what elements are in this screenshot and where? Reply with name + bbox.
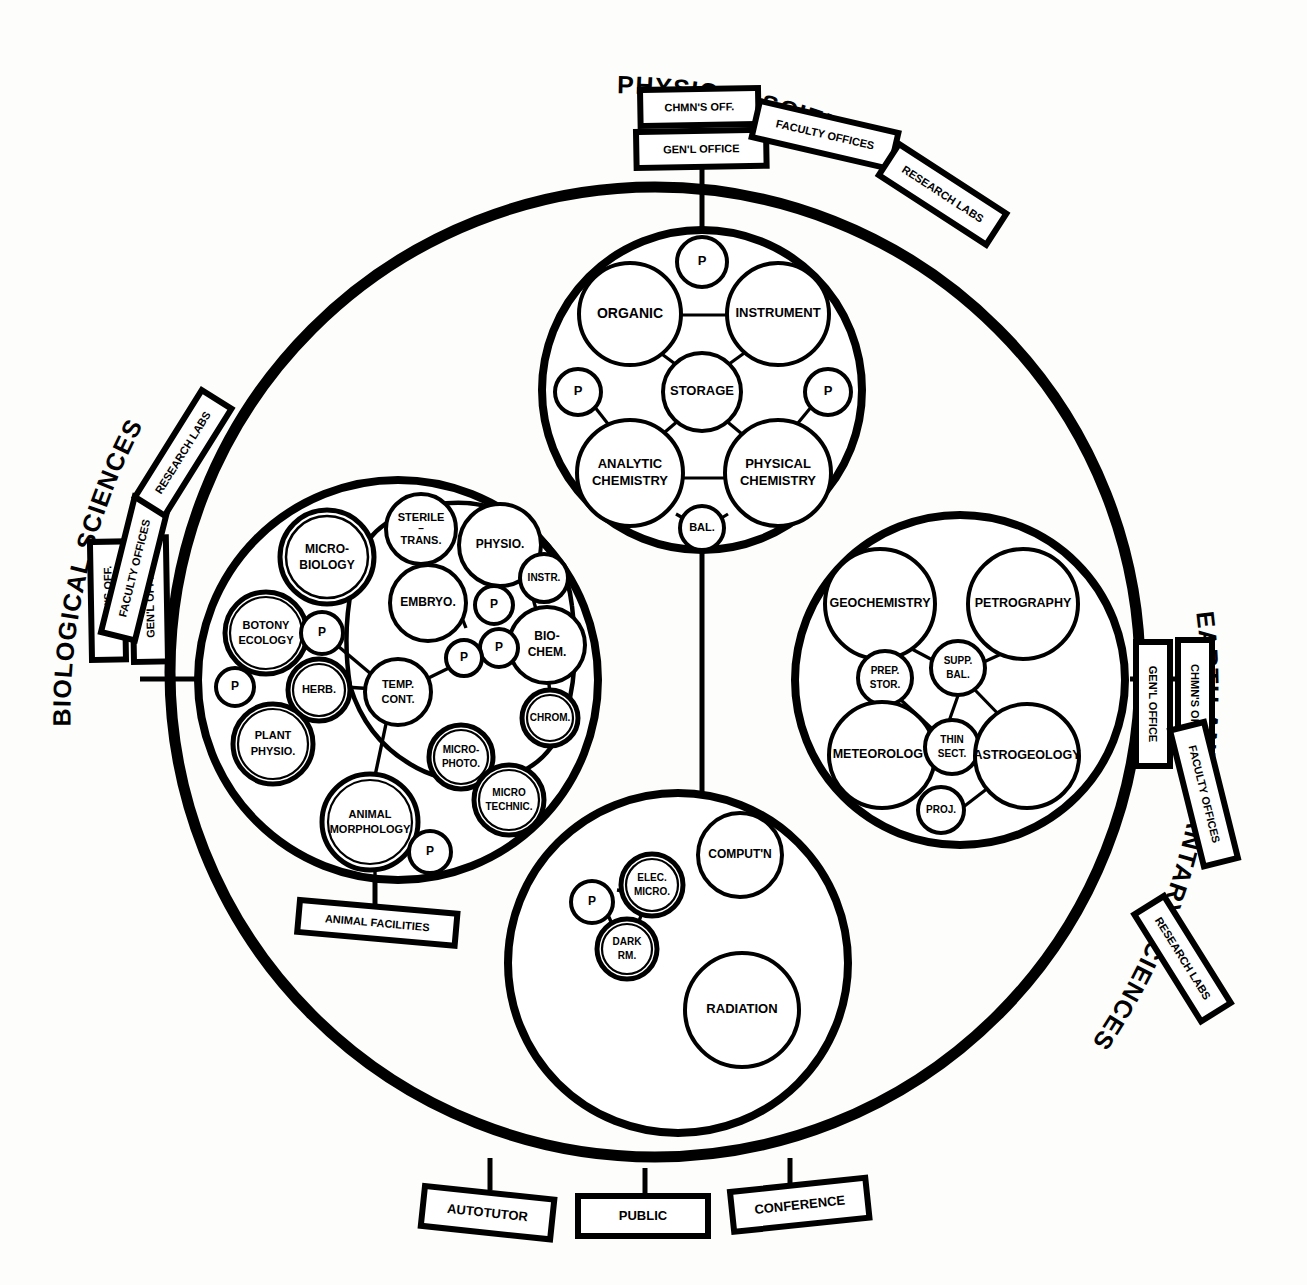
node-microbiology-label-2: BIOLOGY xyxy=(299,558,354,572)
node-botony-ecology[interactable]: BOTONY ECOLOGY xyxy=(225,592,307,674)
node-geochemistry-label: GEOCHEMISTRY xyxy=(830,596,932,610)
node-p-bio-1[interactable]: P xyxy=(301,612,343,654)
node-biochem[interactable]: BIO- CHEM. xyxy=(509,607,585,683)
node-p-bio-5-label: P xyxy=(460,650,468,664)
node-p-bio-6-label: P xyxy=(426,844,434,858)
node-botony-ecology-label-2: ECOLOGY xyxy=(238,634,294,646)
node-p-physical-left[interactable]: P xyxy=(555,369,601,415)
node-p-bio-2[interactable]: P xyxy=(216,668,254,706)
node-embryo-label: EMBRYO. xyxy=(400,595,456,609)
node-animal-morphology[interactable]: ANIMAL MORPHOLOGY xyxy=(322,774,418,870)
box-physical-chmns-off-label: CHMN'S OFF. xyxy=(664,100,734,113)
node-instrument[interactable]: INSTRUMENT xyxy=(727,263,829,365)
node-plant-physio[interactable]: PLANT PHYSIO. xyxy=(233,704,313,784)
node-micro-technic[interactable]: MICRO TECHNIC. xyxy=(474,765,544,835)
box-physical-genl-office[interactable]: GEN'L OFFICE xyxy=(636,130,767,168)
node-radiation[interactable]: RADIATION xyxy=(685,953,799,1067)
box-physical-research-labs[interactable]: RESEARCH LABS xyxy=(879,144,1007,245)
node-thin-sect-label-1: THIN xyxy=(940,734,963,745)
node-prep-stor[interactable]: PREP. STOR. xyxy=(858,651,912,705)
node-p-bio-4[interactable]: P xyxy=(480,629,518,667)
node-sterile-trans[interactable]: STERILE – TRANS. xyxy=(386,494,456,564)
node-sterile-trans-label-3: TRANS. xyxy=(401,534,442,546)
cluster-physical-sciences[interactable]: ORGANIC INSTRUMENT STORAGE ANALYTIC CHEM… xyxy=(542,230,862,550)
box-conference[interactable]: CONFERENCE xyxy=(730,1178,869,1232)
node-p-shared-label: P xyxy=(588,894,596,908)
node-instr[interactable]: INSTR. xyxy=(520,554,568,602)
facility-plan-svg: ORGANIC INSTRUMENT STORAGE ANALYTIC CHEM… xyxy=(0,0,1307,1285)
node-p-bio-3[interactable]: P xyxy=(475,586,513,624)
node-p-bio-5[interactable]: P xyxy=(446,640,482,676)
node-physical-chemistry[interactable]: PHYSICAL CHEMISTRY xyxy=(725,420,831,526)
node-p-physical-top-label: P xyxy=(698,253,707,268)
node-micro-technic-label-1: MICRO xyxy=(492,787,526,798)
node-analytic-chemistry[interactable]: ANALYTIC CHEMISTRY xyxy=(577,420,683,526)
node-analytic-chemistry-label-2: CHEMISTRY xyxy=(592,473,668,488)
node-micro-technic-label-2: TECHNIC. xyxy=(485,801,532,812)
node-elec-micro[interactable]: ELEC. MICRO. xyxy=(621,854,683,916)
cluster-shared-facilities[interactable]: ELEC. MICRO. DARK RM. P COMPUT'N RADIATI… xyxy=(508,793,848,1133)
node-dark-rm-label-1: DARK xyxy=(613,936,643,947)
node-temp-cont-label-1: TEMP. xyxy=(382,678,414,690)
node-geochemistry[interactable]: GEOCHEMISTRY xyxy=(825,549,935,659)
node-bal-label: BAL. xyxy=(689,521,715,533)
node-p-shared[interactable]: P xyxy=(571,881,613,923)
node-physical-chemistry-label-1: PHYSICAL xyxy=(745,456,811,471)
node-thin-sect-label-2: SECT. xyxy=(938,748,967,759)
node-sterile-trans-label-2: – xyxy=(418,523,424,534)
node-thin-sect[interactable]: THIN SECT. xyxy=(925,720,979,774)
node-proj[interactable]: PROJ. xyxy=(918,787,964,833)
node-elec-micro-label-1: ELEC. xyxy=(637,872,667,883)
diagram-root: ORGANIC INSTRUMENT STORAGE ANALYTIC CHEM… xyxy=(0,0,1307,1285)
node-supp-bal-label-2: BAL. xyxy=(946,669,970,680)
node-microbiology-label-1: MICRO- xyxy=(305,542,349,556)
node-organic[interactable]: ORGANIC xyxy=(579,263,681,365)
box-earth-genl-office-label: GEN'L OFFICE xyxy=(1147,666,1159,742)
node-p-physical-top[interactable]: P xyxy=(677,237,727,287)
cluster-earth-planetary-sciences[interactable]: GEOCHEMISTRY PETROGRAPHY PREP. STOR. SUP… xyxy=(795,515,1125,845)
node-biochem-label-2: CHEM. xyxy=(528,645,567,659)
cluster-biological-sciences[interactable]: MICRO- BIOLOGY STERILE – TRANS. PHYSIO. … xyxy=(198,480,598,882)
node-temp-cont[interactable]: TEMP. CONT. xyxy=(365,659,431,725)
node-bal[interactable]: BAL. xyxy=(680,506,724,550)
node-supp-bal-label-1: SUPP. xyxy=(944,655,973,666)
node-embryo[interactable]: EMBRYO. xyxy=(390,565,466,641)
node-storage[interactable]: STORAGE xyxy=(663,353,741,431)
node-p-physical-left-label: P xyxy=(574,383,583,398)
node-dark-rm[interactable]: DARK RM. xyxy=(597,919,657,979)
node-microbiology[interactable]: MICRO- BIOLOGY xyxy=(280,510,374,604)
node-instrument-label: INSTRUMENT xyxy=(735,305,820,320)
node-animal-morphology-label-1: ANIMAL xyxy=(349,808,392,820)
node-dark-rm-label-2: RM. xyxy=(618,950,637,961)
box-earth-genl-office[interactable]: GEN'L OFFICE xyxy=(1136,642,1170,766)
node-radiation-label: RADIATION xyxy=(706,1001,777,1016)
node-botony-ecology-label-1: BOTONY xyxy=(243,619,291,631)
node-astrogeology-label: ASTROGEOLOGY xyxy=(974,748,1082,762)
box-physical-chmns-off[interactable]: CHMN'S OFF. xyxy=(640,88,759,126)
box-public-label: PUBLIC xyxy=(619,1208,668,1223)
node-chrom[interactable]: CHROM. xyxy=(522,690,578,746)
node-organic-label: ORGANIC xyxy=(597,305,663,321)
cluster-shared-boundary xyxy=(508,793,848,1133)
box-autotutor[interactable]: AUTOTUTOR xyxy=(421,1186,554,1239)
node-p-physical-right-label: P xyxy=(824,383,833,398)
node-herb-label: HERB. xyxy=(302,683,336,695)
box-public[interactable]: PUBLIC xyxy=(578,1196,708,1236)
node-p-bio-4-label: P xyxy=(495,640,503,654)
node-supp-bal[interactable]: SUPP. BAL. xyxy=(931,641,985,695)
node-astrogeology[interactable]: ASTROGEOLOGY xyxy=(974,704,1082,808)
node-p-physical-right[interactable]: P xyxy=(805,369,851,415)
box-physical-genl-office-label: GEN'L OFFICE xyxy=(663,142,740,155)
node-computation-label: COMPUT'N xyxy=(708,847,772,861)
node-computation[interactable]: COMPUT'N xyxy=(698,813,782,897)
node-temp-cont-label-2: CONT. xyxy=(382,693,415,705)
node-sterile-trans-label-1: STERILE xyxy=(398,511,444,523)
node-p-bio-6[interactable]: P xyxy=(409,831,451,873)
node-plant-physio-label-1: PLANT xyxy=(255,729,292,741)
node-physio-label: PHYSIO. xyxy=(476,537,525,551)
node-meteorology[interactable]: METEOROLOGY xyxy=(829,702,935,808)
node-p-bio-3-label: P xyxy=(490,597,498,611)
box-animal-facilities[interactable]: ANIMAL FACILITIES xyxy=(297,900,457,946)
node-petrography[interactable]: PETROGRAPHY xyxy=(968,549,1078,659)
node-storage-label: STORAGE xyxy=(670,383,734,398)
